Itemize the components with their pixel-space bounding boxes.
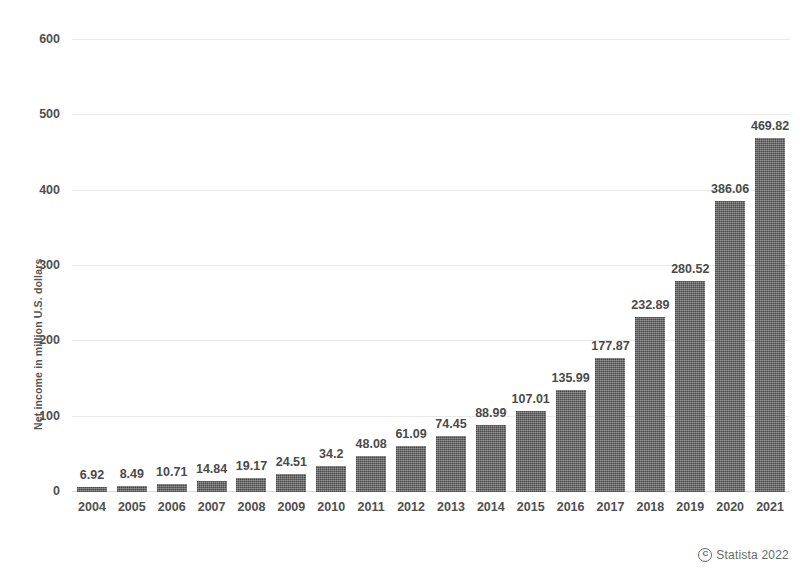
- x-tick-label: 2006: [152, 500, 192, 514]
- copyright-icon: C: [698, 548, 712, 562]
- bar-value-label: 48.08: [356, 437, 387, 451]
- bar[interactable]: [356, 456, 386, 492]
- y-tick-label: 200: [39, 333, 60, 347]
- bar-group: 280.52: [670, 40, 710, 492]
- bar-value-label: 177.87: [591, 339, 629, 353]
- bar[interactable]: [675, 281, 705, 492]
- bar-group: 74.45: [431, 40, 471, 492]
- bar-value-label: 88.99: [475, 406, 506, 420]
- bar-value-label: 14.84: [196, 462, 227, 476]
- bar-group: 61.09: [391, 40, 431, 492]
- bar[interactable]: [595, 358, 625, 492]
- bar[interactable]: [715, 201, 745, 492]
- bar-value-label: 24.51: [276, 455, 307, 469]
- x-tick-label: 2009: [271, 500, 311, 514]
- x-tick-label: 2010: [311, 500, 351, 514]
- x-tick-label: 2005: [112, 500, 152, 514]
- plot-area: 0100200300400500600 6.928.4910.7114.8419…: [72, 40, 790, 492]
- bar[interactable]: [197, 481, 227, 492]
- bar[interactable]: [316, 466, 346, 492]
- bar[interactable]: [635, 317, 665, 492]
- x-tick-label: 2021: [750, 500, 790, 514]
- x-tick-label: 2020: [710, 500, 750, 514]
- x-tick-label: 2013: [431, 500, 471, 514]
- bar-value-label: 8.49: [120, 467, 144, 481]
- bar-group: 469.82: [750, 40, 790, 492]
- y-tick-label: 600: [39, 32, 60, 46]
- bar-group: 135.99: [551, 40, 591, 492]
- x-tick-label: 2008: [232, 500, 272, 514]
- bar[interactable]: [476, 425, 506, 492]
- bar[interactable]: [516, 411, 546, 492]
- x-tick-label: 2018: [630, 500, 670, 514]
- bar-group: 386.06: [710, 40, 750, 492]
- bar-group: 10.71: [152, 40, 192, 492]
- y-tick-label: 300: [39, 258, 60, 272]
- bar[interactable]: [236, 478, 266, 492]
- x-tick-label: 2012: [391, 500, 431, 514]
- y-tick-label: 500: [39, 107, 60, 121]
- bar[interactable]: [276, 474, 306, 492]
- bar-value-label: 74.45: [435, 417, 466, 431]
- x-tick-label: 2004: [72, 500, 112, 514]
- x-tick-label: 2014: [471, 500, 511, 514]
- bar-value-label: 232.89: [631, 298, 669, 312]
- bar[interactable]: [436, 436, 466, 492]
- bar[interactable]: [755, 138, 785, 492]
- bar-value-label: 280.52: [671, 262, 709, 276]
- bar-chart: Net income in million U.S. dollars 01002…: [0, 0, 807, 578]
- footer-attribution: C Statista 2022: [698, 548, 789, 562]
- bar-group: 6.92: [72, 40, 112, 492]
- bar-value-label: 19.17: [236, 459, 267, 473]
- bar-group: 24.51: [271, 40, 311, 492]
- bar[interactable]: [556, 390, 586, 492]
- bar-value-label: 34.2: [319, 447, 343, 461]
- bar[interactable]: [77, 487, 107, 492]
- bar-group: 48.08: [351, 40, 391, 492]
- y-tick-label: 100: [39, 409, 60, 423]
- x-tick-label: 2015: [511, 500, 551, 514]
- bar[interactable]: [157, 484, 187, 492]
- y-tick-label: 400: [39, 183, 60, 197]
- bar[interactable]: [396, 446, 426, 492]
- y-tick-label: 0: [53, 484, 60, 498]
- footer-text: Statista 2022: [716, 548, 789, 562]
- bar-group: 19.17: [232, 40, 272, 492]
- bar-group: 14.84: [192, 40, 232, 492]
- x-axis-labels: 2004200520062007200820092010201120122013…: [72, 500, 790, 520]
- bar-group: 8.49: [112, 40, 152, 492]
- x-tick-label: 2017: [591, 500, 631, 514]
- x-tick-label: 2007: [192, 500, 232, 514]
- bar-value-label: 386.06: [711, 182, 749, 196]
- bar-group: 88.99: [471, 40, 511, 492]
- x-tick-label: 2019: [670, 500, 710, 514]
- bar-group: 177.87: [591, 40, 631, 492]
- bar[interactable]: [117, 486, 147, 492]
- bar-value-label: 6.92: [80, 468, 104, 482]
- x-tick-label: 2011: [351, 500, 391, 514]
- bar-group: 107.01: [511, 40, 551, 492]
- x-tick-label: 2016: [551, 500, 591, 514]
- bar-value-label: 135.99: [551, 371, 589, 385]
- bar-group: 232.89: [630, 40, 670, 492]
- bar-value-label: 10.71: [156, 465, 187, 479]
- bars-layer: 6.928.4910.7114.8419.1724.5134.248.0861.…: [72, 40, 790, 492]
- bar-value-label: 469.82: [751, 119, 789, 133]
- bar-value-label: 107.01: [512, 392, 550, 406]
- bar-value-label: 61.09: [395, 427, 426, 441]
- bar-group: 34.2: [311, 40, 351, 492]
